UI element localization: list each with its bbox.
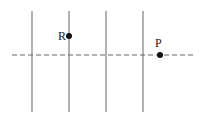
point-label-r: R [58, 29, 66, 43]
diagram-canvas: RP [0, 0, 206, 118]
points: RP [58, 29, 163, 58]
point-p [157, 52, 163, 58]
point-r [66, 33, 72, 39]
diagram-svg: RP [0, 0, 206, 118]
vertical-lines [32, 11, 143, 112]
point-label-p: P [155, 36, 162, 50]
